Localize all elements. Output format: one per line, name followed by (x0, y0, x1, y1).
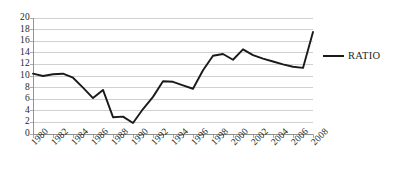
x-axis-tick-label: 1996 (189, 126, 210, 147)
x-axis-tick-label: 1990 (129, 126, 150, 147)
legend-line-swatch-ratio (323, 55, 344, 57)
x-axis-tick-label: 2000 (229, 126, 250, 147)
x-axis-tick-label: 1986 (89, 126, 110, 147)
chart-legend: RATIO (323, 50, 380, 61)
x-axis-tick-label: 1998 (209, 126, 230, 147)
x-axis-tick-label: 1994 (169, 126, 190, 147)
x-axis-tick-label: 1988 (109, 126, 130, 147)
x-axis-tick-labels: 1980198219841986198819901992199419961998… (0, 0, 399, 178)
x-axis-tick-label: 1984 (69, 126, 90, 147)
line-chart: 02468101214161820 1980198219841986198819… (0, 0, 399, 178)
legend-label-ratio: RATIO (348, 50, 380, 61)
x-axis-tick-label: 2008 (309, 126, 330, 147)
x-axis-tick-label: 2002 (249, 126, 270, 147)
x-axis-tick-label: 2006 (289, 126, 310, 147)
x-axis-tick-label: 1992 (149, 126, 170, 147)
x-axis-tick-label: 1980 (29, 126, 50, 147)
x-axis-tick-label: 2004 (269, 126, 290, 147)
x-axis-tick-label: 1982 (49, 126, 70, 147)
